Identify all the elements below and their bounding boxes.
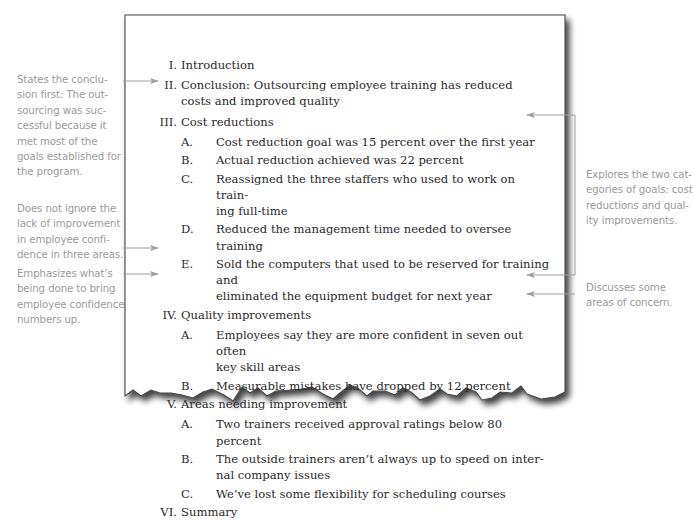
roman-numeral: II. (140, 77, 177, 93)
subitem-text: Cost reduction goal was 15 percent over … (216, 135, 535, 149)
item-text: Areas needing improvement (181, 397, 347, 411)
item-text-line: Conclusion: Outsourcing employee trainin… (181, 78, 513, 92)
annotation-line: sourcing was suc- (17, 105, 106, 116)
subitem-text: ing full-time (216, 204, 288, 218)
item-text: Summary (181, 505, 237, 519)
annotation-line: ity improvements. (586, 215, 677, 226)
subitem-text: Employees say they are more confident in… (216, 328, 523, 358)
letter: B. (181, 451, 196, 467)
annotation-line: goals established for (17, 151, 121, 162)
subitem-text: Measurable mistakes have dropped by 12 p… (216, 379, 511, 393)
subitem-text: Reassigned the three staffers who used t… (216, 172, 515, 202)
letter: B. (181, 152, 196, 168)
outline-subitem: C. We’ve lost some flexibility for sched… (140, 486, 550, 502)
outline-subitem: A. Two trainers received approval rating… (140, 416, 550, 448)
letter: A. (181, 327, 196, 343)
outline-subitem: D. Reduced the management time needed to… (140, 221, 550, 253)
roman-numeral: III. (140, 114, 177, 130)
outline-item-v: V. Areas needing improvement (140, 396, 550, 412)
item-text: Quality improvements (181, 308, 311, 322)
outline-subitem: C. Reassigned the three staffers who use… (140, 171, 550, 220)
annotation-line: sion first: The out- (17, 89, 108, 100)
outline-subitem: B. Measurable mistakes have dropped by 1… (140, 378, 550, 394)
subitem-text: The outside trainers aren’t always up to… (216, 452, 544, 466)
subitem-text: Reduced the management time needed to ov… (216, 222, 511, 252)
annotation-line: Emphasizes what’s (17, 268, 113, 279)
item-text-line: costs and improved quality (181, 94, 340, 108)
roman-numeral: VI. (140, 504, 177, 520)
annotation-line: lack of improvement (17, 218, 120, 229)
annotation-line: cessful because it (17, 120, 106, 131)
outline-subitem: A. Employees say they are more confident… (140, 327, 550, 376)
letter: A. (181, 134, 196, 150)
annotation-line: egories of goals: cost (586, 184, 693, 195)
annotation-line: met most of the (17, 136, 97, 147)
annotation-line: reductions and qual- (586, 200, 689, 211)
subitem-text: Two trainers received approval ratings b… (216, 417, 502, 447)
outline-subitem: E. Sold the computers that used to be re… (140, 256, 550, 305)
letter: A. (181, 416, 196, 432)
subitem-text: Sold the computers that used to be reser… (216, 257, 549, 287)
outline-subitem: B. Actual reduction achieved was 22 perc… (140, 152, 550, 168)
outline: I. Introduction II. Conclusion: Outsourc… (140, 57, 550, 522)
annotation-line: numbers up. (17, 314, 80, 325)
annotation-conclusion-first: States the conclu- sion first: The out- … (17, 72, 129, 180)
subitem-text: nal company issues (216, 468, 330, 482)
annotation-line: in employee confi- (17, 234, 110, 245)
item-text: Introduction (181, 58, 254, 72)
outline-subitem: B. The outside trainers aren’t always up… (140, 451, 550, 483)
outline-item-ii: II. Conclusion: Outsourcing employee tra… (140, 77, 550, 109)
letter: E. (181, 256, 196, 272)
letter: C. (181, 486, 196, 502)
outline-item-i: I. Introduction (140, 57, 550, 73)
roman-numeral: I. (140, 57, 177, 73)
subitem-text: Actual reduction achieved was 22 percent (216, 153, 464, 167)
item-text: Cost reductions (181, 115, 274, 129)
annotation-emphasizes: Emphasizes what’s being done to bring em… (17, 266, 129, 328)
annotation-line: being done to bring (17, 283, 115, 294)
annotation-line: dence in three areas. (17, 249, 123, 260)
annotation-lack-of-improvement: Does not ignore the lack of improvement … (17, 201, 129, 263)
subitem-text: We’ve lost some flexibility for scheduli… (216, 487, 506, 501)
outline-item-iv: IV. Quality improvements (140, 307, 550, 323)
roman-numeral: V. (140, 396, 177, 412)
annotation-line: Does not ignore the (17, 203, 116, 214)
roman-numeral: IV. (140, 307, 177, 323)
annotation-line: States the conclu- (17, 74, 108, 85)
annotation-areas-of-concern: Discusses some areas of concern. (586, 280, 693, 311)
subitem-text: key skill areas (216, 360, 300, 374)
annotation-line: the program. (17, 166, 82, 177)
outline-item-iii: III. Cost reductions (140, 114, 550, 130)
outline-subitem: A. Cost reduction goal was 15 percent ov… (140, 134, 550, 150)
annotation-line: employee confidence (17, 299, 124, 310)
annotation-explores-goals: Explores the two cat- egories of goals: … (586, 167, 693, 229)
annotation-line: areas of concern. (586, 297, 673, 308)
outline-item-vi: VI. Summary (140, 504, 550, 520)
subitem-text: eliminated the equipment budget for next… (216, 289, 492, 303)
letter: D. (181, 221, 196, 237)
letter: B. (181, 378, 196, 394)
annotation-line: Explores the two cat- (586, 169, 692, 180)
annotation-line: Discusses some (586, 282, 666, 293)
letter: C. (181, 171, 196, 187)
